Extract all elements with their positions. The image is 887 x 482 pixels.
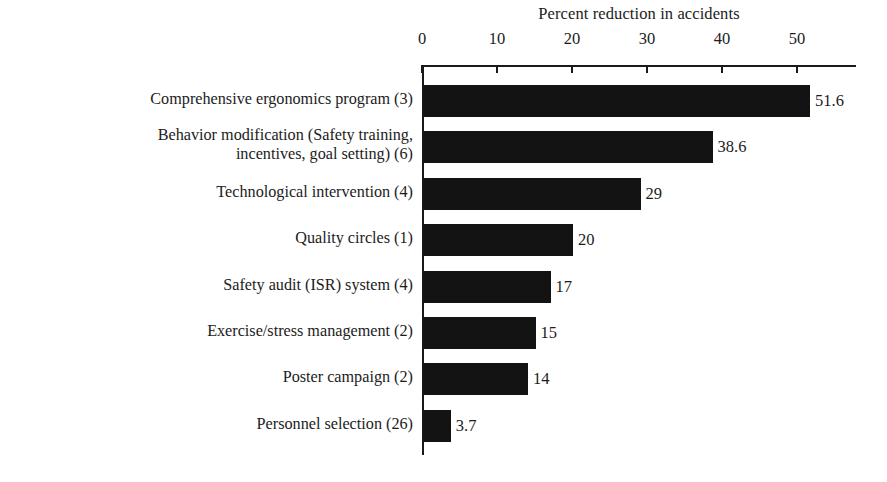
bar xyxy=(423,131,713,163)
bar xyxy=(423,271,551,303)
x-tick-label-30: 30 xyxy=(627,29,667,49)
bar xyxy=(423,317,536,349)
x-tick-50 xyxy=(796,65,798,73)
x-tick-20 xyxy=(571,65,573,73)
chart-title: Percent reduction in accidents xyxy=(422,4,856,24)
bar-row: Behavior modification (Safety training, … xyxy=(0,131,887,163)
x-axis-line xyxy=(422,65,856,67)
bar-row: Poster campaign (2)14 xyxy=(0,363,887,395)
bar-value-label: 3.7 xyxy=(456,416,477,436)
x-tick-label-50: 50 xyxy=(777,29,817,49)
x-tick-label-10: 10 xyxy=(477,29,517,49)
bar-value-label: 29 xyxy=(646,184,663,204)
x-tick-40 xyxy=(721,65,723,73)
bar xyxy=(423,224,573,256)
bar-value-label: 51.6 xyxy=(815,91,844,111)
x-tick-label-20: 20 xyxy=(552,29,592,49)
category-label: Personnel selection (26) xyxy=(0,415,413,434)
category-label: Technological intervention (4) xyxy=(0,183,413,202)
bar-row: Safety audit (ISR) system (4)17 xyxy=(0,271,887,303)
bar-row: Technological intervention (4)29 xyxy=(0,178,887,210)
bar xyxy=(423,410,451,442)
category-label: Quality circles (1) xyxy=(0,229,413,248)
y-axis-line xyxy=(422,65,424,455)
bar-row: Comprehensive ergonomics program (3)51.6 xyxy=(0,85,887,117)
bar-row: Exercise/stress management (2)15 xyxy=(0,317,887,349)
bar-value-label: 38.6 xyxy=(718,137,747,157)
x-tick-30 xyxy=(646,65,648,73)
bar-row: Personnel selection (26)3.7 xyxy=(0,410,887,442)
bar xyxy=(423,178,641,210)
x-tick-10 xyxy=(496,65,498,73)
bar xyxy=(423,85,810,117)
category-label: Exercise/stress management (2) xyxy=(0,322,413,341)
bar xyxy=(423,363,528,395)
category-label: Poster campaign (2) xyxy=(0,368,413,387)
x-tick-label-40: 40 xyxy=(702,29,742,49)
bar-value-label: 15 xyxy=(541,323,558,343)
bar-chart-figure: Percent reduction in accidents 010203040… xyxy=(0,0,887,482)
category-label: Safety audit (ISR) system (4) xyxy=(0,276,413,295)
bar-value-label: 17 xyxy=(556,277,573,297)
bar-value-label: 14 xyxy=(533,369,550,389)
bar-row: Quality circles (1)20 xyxy=(0,224,887,256)
category-label: Behavior modification (Safety training, … xyxy=(0,126,413,164)
x-tick-0 xyxy=(421,65,423,73)
x-tick-label-0: 0 xyxy=(402,29,442,49)
bar-value-label: 20 xyxy=(578,230,595,250)
category-label: Comprehensive ergonomics program (3) xyxy=(0,90,413,109)
